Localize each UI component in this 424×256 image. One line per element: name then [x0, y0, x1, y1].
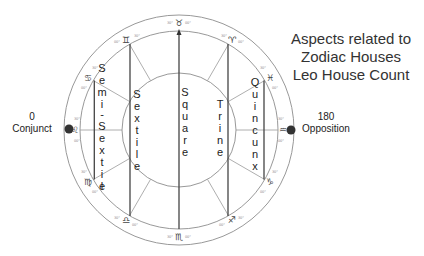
svg-text:30°: 30° [260, 66, 266, 70]
svg-text:S: S [133, 88, 140, 100]
libra-glyph: ♎ [122, 215, 130, 225]
svg-text:i: i [219, 122, 221, 134]
svg-text:30°: 30° [74, 117, 80, 121]
svg-text:S: S [98, 120, 105, 132]
svg-text:x: x [252, 160, 258, 172]
svg-text:r: r [183, 134, 187, 146]
svg-text:e: e [217, 146, 223, 158]
aries-glyph: ♈ [228, 35, 237, 45]
svg-text:e: e [99, 132, 105, 144]
svg-text:e: e [99, 74, 105, 86]
svg-text:30°: 30° [272, 170, 278, 174]
svg-text:e: e [182, 146, 188, 158]
quincunx-label: Q u i n c u n x [251, 76, 260, 172]
capricorn-glyph: ♑ [266, 177, 274, 187]
svg-text:00°: 00° [185, 21, 191, 25]
svg-text:a: a [182, 122, 189, 134]
svg-text:Q: Q [251, 76, 260, 88]
svg-text:00°: 00° [219, 223, 225, 227]
aquarius-glyph: ♒ [279, 125, 287, 135]
trine-label: T r i n e [217, 98, 224, 158]
conjunct-text: Conjunct [6, 123, 58, 135]
svg-text:00°: 00° [260, 190, 266, 194]
svg-text:30°: 30° [278, 117, 284, 121]
svg-text:00°: 00° [238, 40, 244, 44]
svg-text:c: c [252, 124, 258, 136]
title-line-2: Zodiac Houses [278, 48, 424, 66]
svg-text:l: l [136, 148, 138, 160]
square-arrowhead [177, 29, 182, 35]
svg-text:00°: 00° [114, 40, 120, 44]
svg-text:00°: 00° [74, 139, 80, 143]
svg-text:00°: 00° [272, 86, 278, 90]
leo-glyph: ♌ [71, 125, 79, 135]
taurus-glyph: ♉ [175, 18, 183, 28]
svg-text:i: i [101, 168, 103, 180]
svg-text:30°: 30° [221, 34, 227, 38]
svg-text:u: u [252, 136, 258, 148]
svg-text:30°: 30° [167, 235, 173, 239]
title-line-1: Aspects related to [278, 30, 424, 48]
svg-text:-: - [100, 108, 104, 120]
opposition-degree: 180 [296, 111, 356, 123]
svg-text:x: x [134, 112, 140, 124]
pisces-glyph: ♓ [266, 73, 274, 83]
svg-text:30°: 30° [238, 216, 244, 220]
opposition-text: Opposition [296, 123, 356, 135]
svg-text:30°: 30° [81, 170, 87, 174]
svg-text:n: n [217, 134, 223, 146]
cancer-glyph: ♋ [84, 73, 92, 83]
opposition-dot [287, 126, 296, 135]
svg-text:i: i [136, 136, 138, 148]
title-line-3: Leo House Count [278, 66, 424, 84]
svg-text:u: u [252, 88, 258, 100]
svg-text:00°: 00° [185, 235, 191, 239]
svg-text:x: x [99, 144, 105, 156]
sagittarius-glyph: ♐ [228, 215, 236, 225]
square-label: S q u a r e [181, 86, 189, 158]
svg-text:S: S [98, 62, 105, 74]
svg-text:r: r [218, 110, 222, 122]
svg-text:e: e [134, 160, 140, 172]
svg-text:30°: 30° [134, 34, 140, 38]
svg-text:m: m [97, 86, 106, 98]
svg-text:n: n [252, 112, 258, 124]
svg-text:T: T [217, 98, 224, 110]
svg-text:t: t [135, 124, 138, 136]
scorpio-glyph: ♏ [175, 232, 183, 242]
gemini-glyph: ♊ [122, 35, 130, 45]
svg-text:00°: 00° [132, 223, 138, 227]
svg-text:00°: 00° [278, 139, 284, 143]
sextile-label: S e x t i l e [133, 88, 140, 172]
svg-text:30°: 30° [167, 21, 173, 25]
svg-text:u: u [182, 110, 188, 122]
svg-text:t: t [100, 156, 103, 168]
svg-text:e: e [134, 100, 140, 112]
virgo-glyph: ♍ [84, 177, 92, 187]
svg-text:e: e [99, 180, 105, 192]
svg-text:00°: 00° [92, 190, 98, 194]
conjunct-degree: 0 [6, 111, 58, 123]
svg-text:n: n [252, 148, 258, 160]
svg-text:q: q [182, 98, 188, 110]
svg-text:i: i [254, 100, 256, 112]
diagram-title: Aspects related to Zodiac Houses Leo Hou… [278, 30, 424, 84]
conjunct-label: 0 Conjunct [6, 111, 58, 135]
svg-text:30°: 30° [114, 216, 120, 220]
opposition-label: 180 Opposition [296, 111, 356, 135]
svg-text:00°: 00° [81, 86, 87, 90]
svg-text:S: S [181, 86, 188, 98]
